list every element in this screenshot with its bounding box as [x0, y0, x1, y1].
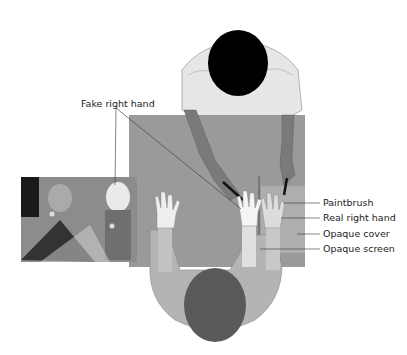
- experimenter-head: [208, 30, 268, 96]
- rubber-hand-diagram: Fake right hand Paintbrush Real right ha…: [0, 0, 407, 355]
- label-opaque-screen: Opaque screen: [323, 243, 395, 254]
- label-fake-right-hand: Fake right hand: [81, 98, 155, 109]
- label-paintbrush: Paintbrush: [323, 197, 373, 208]
- diagram-illustration: [0, 0, 407, 355]
- photo-inset: [21, 177, 137, 262]
- label-real-right-hand: Real right hand: [323, 212, 396, 223]
- label-opaque-cover: Opaque cover: [323, 228, 390, 239]
- participant-head: [184, 268, 246, 342]
